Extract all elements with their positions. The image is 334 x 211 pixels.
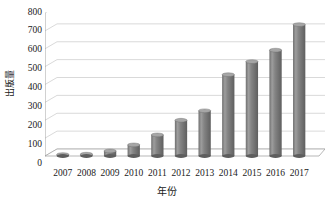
bar-column <box>246 60 258 158</box>
bar-column <box>269 48 281 158</box>
y-axis-tick-label: 100 <box>18 140 42 150</box>
x-axis-tick-labels: 2007200820092010201120122013201420152016… <box>40 167 332 181</box>
x-axis-title: 年份 <box>0 186 334 198</box>
y-axis-tick-label: 700 <box>18 26 42 36</box>
y-axis-tick-label: 200 <box>18 121 42 131</box>
y-axis-tick-label: 600 <box>18 45 42 55</box>
bar-column <box>293 23 305 158</box>
y-axis-tick-label: 0 <box>18 159 42 169</box>
y-axis-tick-label: 400 <box>18 83 42 93</box>
y-axis-tick-label: 300 <box>18 102 42 112</box>
bar-column <box>128 143 140 158</box>
bar-column <box>80 152 92 158</box>
bar-column <box>104 149 116 158</box>
y-axis-tick-label: 500 <box>18 64 42 74</box>
bar-column <box>198 109 210 158</box>
y-axis-title: 出版量 <box>5 60 15 106</box>
publication-volume-bar-chart: 出版量 800 700 600 500 400 300 200 100 0 <box>0 0 334 211</box>
bar-column <box>57 153 69 158</box>
plot-area <box>45 12 325 165</box>
x-axis-tick-label: 2017 <box>282 167 316 179</box>
y-axis-tick-labels: 800 700 600 500 400 300 200 100 0 <box>18 0 42 211</box>
bar-column <box>151 133 163 158</box>
y-axis-tick-label: 800 <box>18 8 42 18</box>
bar-series <box>57 23 306 158</box>
plot-svg <box>45 12 325 165</box>
bar-column <box>175 118 187 158</box>
bar-column <box>222 73 234 158</box>
